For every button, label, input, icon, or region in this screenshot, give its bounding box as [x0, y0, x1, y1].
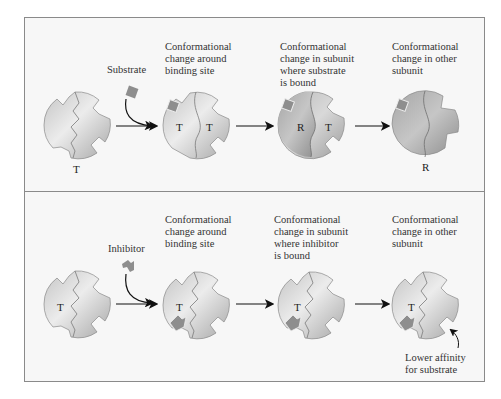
inhibitor-ligand [122, 260, 134, 272]
enzyme-t-state-inhibitor-1 [44, 271, 110, 338]
bottom-step-4-caption: Conformational change in other subunit [392, 214, 459, 250]
substrate-label: Substrate [107, 64, 146, 76]
enzyme-substrate-bound-1 [163, 92, 229, 159]
enzyme-r-t-state [278, 92, 344, 159]
lower-affinity-annotation: Lower affinity for substrate [405, 352, 466, 376]
state-label-t: T [73, 164, 80, 175]
enzyme-t-state-1 [44, 92, 110, 159]
bottom-step-3-caption: Conformational change in subunit where i… [274, 214, 348, 262]
inhibitor-label: Inhibitor [108, 243, 145, 255]
top-step-3-caption: Conformational change in subunit where s… [280, 41, 354, 89]
state-label-t-right-2: T [325, 122, 332, 133]
state-label-t-b4: T [408, 302, 415, 313]
state-label-t-right: T [206, 122, 213, 133]
enzyme-inhibitor-bound-3 [392, 272, 458, 339]
state-label-t-left: T [176, 122, 183, 133]
state-label-t-b1: T [57, 302, 64, 313]
enzyme-r-state [392, 91, 459, 157]
state-label-r-left: R [297, 122, 304, 133]
enzyme-inhibitor-bound-1 [163, 272, 229, 339]
state-label-t-b3: T [294, 302, 301, 313]
top-step-2-caption: Conformational change around binding sit… [165, 41, 232, 77]
substrate-binding-arrow [126, 99, 152, 126]
state-label-t-b2: T [176, 302, 183, 313]
state-label-r: R [422, 162, 429, 173]
substrate-ligand [126, 86, 139, 99]
affinity-pointer-arrow [451, 330, 459, 348]
enzyme-inhibitor-bound-2 [278, 272, 344, 339]
bottom-step-2-caption: Conformational change around binding sit… [165, 214, 232, 250]
inhibitor-binding-arrow [126, 274, 152, 303]
top-step-4-caption: Conformational change in other subunit [392, 41, 459, 77]
